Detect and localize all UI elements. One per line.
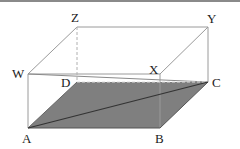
label-d: D (61, 75, 70, 90)
cuboid-diagram: Z Y W X D C A B (0, 0, 240, 149)
edge-w-c-diagonal (28, 74, 208, 82)
label-z: Z (71, 10, 79, 25)
edge-xy (160, 27, 208, 74)
label-b: B (155, 131, 164, 146)
diagram-canvas: Z Y W X D C A B (0, 0, 240, 149)
edge-wz (28, 27, 77, 74)
label-c: C (212, 75, 221, 90)
label-a: A (22, 131, 32, 146)
label-w: W (12, 66, 25, 81)
label-x: X (149, 62, 159, 77)
label-y: Y (207, 11, 217, 26)
